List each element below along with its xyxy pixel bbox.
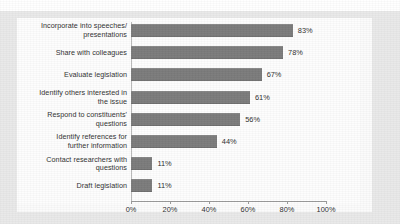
bar-row: Draft legislation11% bbox=[17, 177, 372, 198]
x-axis-tick bbox=[248, 201, 249, 204]
bar-row: Share with colleagues78% bbox=[17, 44, 372, 65]
x-axis-tick bbox=[131, 201, 132, 204]
bar bbox=[131, 91, 250, 104]
x-axis-tick-label: 40% bbox=[202, 205, 217, 214]
bar-row: Identify references forfurther informati… bbox=[17, 133, 372, 154]
x-axis-tick bbox=[209, 201, 210, 204]
bar-category-label: Contact researchers withquestions bbox=[17, 156, 127, 173]
bar-category-label-line: presentations bbox=[17, 31, 127, 40]
bar-category-label-line: questions bbox=[17, 164, 127, 173]
bar-value-label: 11% bbox=[157, 181, 171, 190]
bar bbox=[131, 68, 262, 81]
x-axis-tick-label: 60% bbox=[241, 205, 256, 214]
bar-row: Incorporate into speeches/presentations8… bbox=[17, 22, 372, 43]
x-axis-tick bbox=[326, 201, 327, 204]
bar-value-label: 11% bbox=[157, 159, 171, 168]
bar-category-label-line: Draft legislation bbox=[17, 182, 127, 191]
bar-track bbox=[131, 66, 326, 87]
bar bbox=[131, 46, 283, 59]
horizontal-bar-chart: Incorporate into speeches/presentations8… bbox=[17, 18, 372, 212]
bar-category-label: Incorporate into speeches/presentations bbox=[17, 22, 127, 39]
bar-track bbox=[131, 22, 326, 43]
bar-row: Respond to constituents'questions56% bbox=[17, 111, 372, 132]
scanned-page: Incorporate into speeches/presentations8… bbox=[0, 0, 400, 224]
bar-value-label: 44% bbox=[222, 137, 237, 146]
bar-category-label-line: Share with colleagues bbox=[17, 49, 127, 58]
x-axis-line bbox=[131, 201, 327, 202]
bar-category-label: Evaluate legislation bbox=[17, 71, 127, 80]
bar-category-label-line: further information bbox=[17, 142, 127, 151]
x-axis-tick bbox=[287, 201, 288, 204]
bar-category-label-line: Evaluate legislation bbox=[17, 71, 127, 80]
bar-category-label: Draft legislation bbox=[17, 182, 127, 191]
bar-row: Identify others interested inthe issue61… bbox=[17, 89, 372, 110]
bar bbox=[131, 24, 293, 37]
bar bbox=[131, 157, 152, 170]
bar-category-label-line: questions bbox=[17, 120, 127, 129]
bar-category-label: Identify others interested inthe issue bbox=[17, 89, 127, 106]
x-axis-tick bbox=[170, 201, 171, 204]
bar bbox=[131, 113, 240, 126]
bar-track bbox=[131, 111, 326, 132]
x-axis-tick-label: 80% bbox=[280, 205, 295, 214]
bar-value-label: 67% bbox=[267, 70, 282, 79]
bar-row: Contact researchers withquestions11% bbox=[17, 155, 372, 176]
bar-row: Evaluate legislation67% bbox=[17, 66, 372, 87]
bar-category-label: Share with colleagues bbox=[17, 49, 127, 58]
bar-category-label: Respond to constituents'questions bbox=[17, 111, 127, 128]
bar-value-label: 78% bbox=[288, 48, 303, 57]
bar-value-label: 83% bbox=[298, 26, 313, 35]
x-axis-tick-label: 100% bbox=[317, 205, 336, 214]
bar bbox=[131, 179, 152, 192]
bar-value-label: 61% bbox=[255, 93, 270, 102]
bar-category-label: Identify references forfurther informati… bbox=[17, 133, 127, 150]
bar-category-label-line: the issue bbox=[17, 98, 127, 107]
bar bbox=[131, 135, 217, 148]
bar-track bbox=[131, 89, 326, 110]
bar-value-label: 56% bbox=[245, 115, 260, 124]
x-axis-tick-label: 0% bbox=[126, 205, 137, 214]
x-axis-tick-label: 20% bbox=[163, 205, 178, 214]
chart-card: Incorporate into speeches/presentations8… bbox=[17, 18, 372, 212]
